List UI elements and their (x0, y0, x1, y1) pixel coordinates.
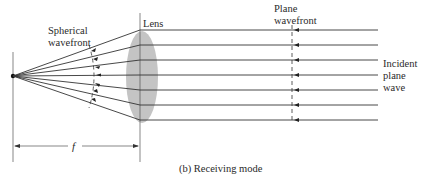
incident-label-1: Incident (383, 58, 417, 69)
incident-label-3: wave (383, 82, 405, 93)
incident-arrowheads (294, 28, 299, 122)
spherical-wavefront-label-1: Spherical (48, 25, 88, 36)
incident-label-2: plane (383, 70, 406, 81)
incident-rays (140, 30, 378, 120)
lens-label: Lens (143, 18, 163, 29)
focal-length-label: f (72, 140, 77, 152)
plane-wavefront-label-2: wavefront (274, 15, 317, 26)
focal-length-dimension (14, 144, 139, 148)
spherical-wavefront-label-2: wavefront (48, 37, 91, 48)
receiving-mode-diagram: Spherical wavefront Lens Plane wavefront… (0, 0, 426, 177)
plane-wavefront-label-1: Plane (274, 3, 298, 14)
figure-caption: (b) Receiving mode (179, 163, 263, 175)
